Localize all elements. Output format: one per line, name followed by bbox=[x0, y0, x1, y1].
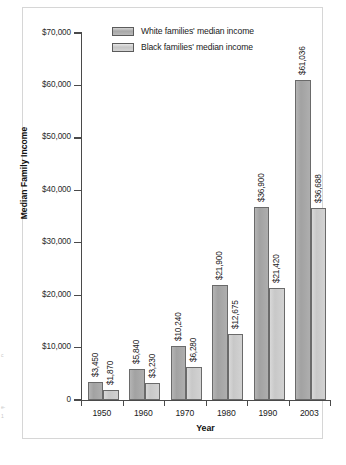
bar-value-label: $36,688 bbox=[313, 174, 323, 203]
x-axis-tick bbox=[164, 400, 165, 406]
x-axis-category-label: 1970 bbox=[162, 408, 208, 418]
bar-value-label: $10,240 bbox=[173, 313, 183, 342]
bar[interactable]: $3,450 bbox=[88, 382, 104, 400]
x-axis-tick bbox=[289, 400, 290, 406]
x-axis-category-label: 2003 bbox=[286, 408, 332, 418]
x-axis-category-label: 1980 bbox=[203, 408, 249, 418]
bar[interactable]: $10,240 bbox=[171, 346, 187, 400]
bars-layer: $3,450$1,870$5,840$3,230$10,240$6,280$21… bbox=[0, 0, 346, 465]
bar-value-label: $3,230 bbox=[147, 354, 157, 378]
bar[interactable]: $36,688 bbox=[311, 208, 327, 400]
x-axis-tick bbox=[123, 400, 124, 406]
bar-value-label: $36,900 bbox=[256, 173, 266, 202]
bar-value-label: $3,450 bbox=[90, 353, 100, 377]
bar[interactable]: $36,900 bbox=[254, 207, 270, 400]
bar[interactable]: $61,036 bbox=[295, 80, 311, 400]
bar-chart: Median Family Income $70,000$60,000$50,0… bbox=[0, 0, 346, 465]
bar-value-label: $12,675 bbox=[230, 300, 240, 329]
bar[interactable]: $21,420 bbox=[269, 288, 285, 400]
x-axis-tick bbox=[206, 400, 207, 406]
bar-value-label: $61,036 bbox=[297, 46, 307, 75]
bar[interactable]: $21,900 bbox=[212, 285, 228, 400]
x-axis-category-label: 1990 bbox=[245, 408, 291, 418]
x-axis-category-label: 1960 bbox=[120, 408, 166, 418]
bar-value-label: $21,420 bbox=[271, 254, 281, 283]
x-axis-title: Year bbox=[81, 423, 330, 433]
bar[interactable]: $12,675 bbox=[228, 334, 244, 400]
x-axis-tick bbox=[247, 400, 248, 406]
x-axis-tick bbox=[81, 400, 82, 406]
bar[interactable]: $1,870 bbox=[103, 390, 119, 400]
bar-value-label: $5,840 bbox=[131, 340, 141, 364]
bar[interactable]: $3,230 bbox=[145, 383, 161, 400]
bar-value-label: $6,280 bbox=[188, 338, 198, 362]
bar[interactable]: $5,840 bbox=[129, 369, 145, 400]
x-axis-tick bbox=[330, 400, 331, 406]
bar-value-label: $1,870 bbox=[105, 361, 115, 385]
bar[interactable]: $6,280 bbox=[186, 367, 202, 400]
x-axis-category-label: 1950 bbox=[79, 408, 125, 418]
bar-value-label: $21,900 bbox=[214, 252, 224, 281]
